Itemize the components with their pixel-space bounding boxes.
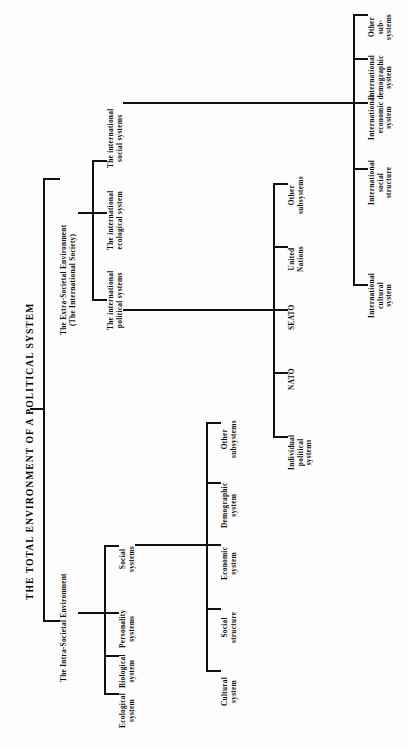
node-international-social-structure: International social structure — [368, 160, 394, 205]
node-label-line2: system — [230, 547, 239, 580]
node-label-line2: system — [230, 677, 239, 706]
intra-societal-spine — [104, 545, 106, 695]
pol-arm-un — [273, 246, 288, 248]
intra-societal-stem — [78, 612, 106, 614]
node-label-line1: SEATO — [288, 304, 297, 330]
node-label-line2: (The International Society) — [69, 225, 78, 335]
socsub-arm-demographic — [206, 482, 221, 484]
extra-arm-social — [92, 160, 107, 162]
soc-arm-cultural — [353, 284, 368, 286]
node-economic-system: Economic system — [221, 547, 238, 580]
node-nato: NATO — [288, 368, 297, 390]
soc-arm-demographic — [353, 58, 368, 60]
extra-societal-spine — [92, 160, 94, 301]
socsub-arm-economic — [206, 544, 221, 546]
soc-arm-other — [353, 14, 368, 16]
extra-arm-ecological — [92, 212, 107, 214]
social-systems-stem — [135, 544, 208, 546]
node-seato: SEATO — [288, 304, 297, 330]
node-intra-other-subsystems: Other subsystems — [221, 420, 238, 458]
pol-arm-nato — [273, 372, 288, 374]
intra-arm-personality — [104, 612, 119, 614]
node-label-line2: Nations — [297, 246, 306, 272]
international-social-systems-stem — [123, 102, 355, 104]
soc-arm-economic — [353, 102, 368, 104]
node-international-demographic-system: International demographic system — [368, 55, 394, 100]
node-label-line2: social systems — [116, 109, 125, 168]
intra-arm-biological — [104, 655, 119, 657]
node-intra-societal-environment: The Intra-Societal Environment — [60, 573, 69, 682]
node-demographic-system: Demographic system — [221, 483, 238, 528]
node-united-nations: United Nations — [288, 246, 305, 272]
intra-arm-ecological — [104, 693, 119, 695]
node-extra-societal-environment: The Extra-Societal Environment (The Inte… — [60, 225, 77, 335]
node-social-other-subsystems: Other sub- systems — [368, 14, 394, 40]
node-label-line2: system — [230, 483, 239, 528]
node-social-structure: Social structure — [221, 612, 238, 643]
social-systems-spine — [206, 422, 208, 672]
root-spine — [43, 178, 45, 622]
node-international-social-systems: The international social systems — [107, 109, 124, 168]
node-label-line2: system — [128, 654, 137, 688]
node-label-line3: system — [385, 273, 394, 318]
node-label-line1: NATO — [288, 368, 297, 390]
node-individual-political-systems: Individual political systems — [288, 435, 314, 470]
node-label-line2: structure — [230, 612, 239, 643]
node-international-political-systems: The international political systems — [107, 271, 124, 330]
node-label-line3: systems — [305, 435, 314, 470]
node-label-line2: subsystems — [230, 420, 239, 458]
node-biological-system: Biological system — [119, 654, 136, 688]
root-arm-intra — [43, 620, 60, 622]
node-label-line3: system — [385, 55, 394, 100]
node-label-line2: ecological system — [116, 191, 125, 250]
node-cultural-system: Cultural system — [221, 677, 238, 706]
pol-arm-seato — [273, 309, 288, 311]
intra-arm-social — [104, 545, 119, 547]
soc-arm-structure — [353, 168, 368, 170]
pol-arm-other — [273, 183, 288, 185]
socsub-arm-structure — [206, 608, 221, 610]
node-ecological-system: Ecological system — [119, 693, 136, 728]
node-international-cultural-system: International cultural system — [368, 273, 394, 318]
node-label-line2: political systems — [116, 271, 125, 330]
node-label-line2: systems — [128, 610, 137, 648]
socsub-arm-cultural — [206, 670, 221, 672]
root-arm-extra — [43, 178, 60, 180]
extra-arm-political — [92, 299, 107, 301]
node-label-line3: structure — [385, 160, 394, 205]
node-label-line2: system — [128, 693, 137, 728]
node-label-line3: systems — [385, 14, 394, 40]
node-label-line2: systems — [128, 546, 137, 572]
node-label-line1: The Intra-Societal Environment — [60, 573, 69, 682]
diagram-canvas: THE TOTAL ENVIRONMENT OF A POLITICAL SYS… — [0, 0, 407, 746]
node-international-ecological-system: The international ecological system — [107, 191, 124, 250]
pol-arm-individual — [273, 436, 288, 438]
node-personality-systems: Personality systems — [119, 610, 136, 648]
node-political-other-subsystems: Other subsystems — [288, 176, 305, 214]
node-international-economic-system: International economic system — [368, 95, 394, 140]
node-social-systems: Social systems — [119, 546, 136, 572]
node-label-line3: system — [385, 95, 394, 140]
international-social-systems-spine — [353, 14, 355, 286]
page-title: THE TOTAL ENVIRONMENT OF A POLITICAL SYS… — [24, 303, 35, 600]
political-systems-stem — [123, 309, 275, 311]
socsub-arm-other — [206, 422, 221, 424]
node-label-line2: subsystems — [297, 176, 306, 214]
